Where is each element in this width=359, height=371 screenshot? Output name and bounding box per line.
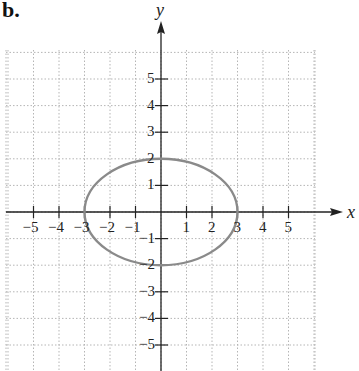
ellipse-chart: [0, 0, 359, 371]
x-tick-label: −4: [48, 220, 64, 235]
x-tick-label: 3: [234, 220, 242, 235]
y-tick-label: −4: [139, 310, 155, 325]
y-tick-label: 1: [147, 177, 155, 192]
x-tick-label: 1: [183, 220, 191, 235]
y-tick-label: −2: [139, 257, 155, 272]
x-tick-label: 2: [208, 220, 216, 235]
x-tick-label: −3: [74, 220, 90, 235]
x-tick-label: −5: [23, 220, 39, 235]
x-axis-label: x: [347, 202, 355, 223]
x-tick-label: −2: [99, 220, 115, 235]
y-tick-label: −1: [139, 231, 155, 246]
y-tick-label: 2: [147, 151, 155, 166]
y-tick-label: 5: [147, 71, 155, 86]
y-tick-label: −5: [139, 337, 155, 352]
y-tick-label: 4: [147, 98, 155, 113]
y-tick-label: −3: [139, 284, 155, 299]
x-tick-label: 4: [259, 220, 267, 235]
y-axis-label: y: [156, 0, 164, 21]
x-tick-label: 5: [285, 220, 293, 235]
y-tick-label: 3: [147, 124, 155, 139]
